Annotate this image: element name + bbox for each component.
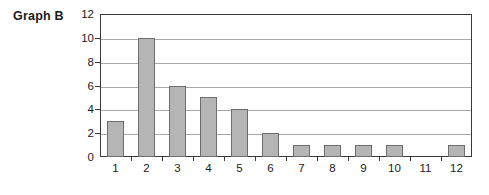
bar-2 [138,38,155,157]
x-tick-mark-3 [193,157,194,161]
x-tick-mark-4 [224,157,225,161]
bar-8 [324,145,341,157]
bar-1 [107,121,124,157]
y-tick-mark-6 [95,86,100,87]
bar-9 [355,145,372,157]
x-tick-label-3: 3 [174,162,180,174]
x-tick-mark-6 [286,157,287,161]
bar-10 [386,145,403,157]
y-tick-label-10: 10 [81,32,94,44]
x-tick-mark-2 [162,157,163,161]
y-tick-label-6: 6 [88,80,94,92]
y-axis-labels: 024681012 [70,0,94,195]
x-tick-mark-7 [317,157,318,161]
x-tick-mark-1 [131,157,132,161]
bar-7 [293,145,310,157]
x-tick-label-10: 10 [388,162,401,174]
x-tick-label-6: 6 [267,162,273,174]
bar-3 [169,86,186,158]
y-tick-mark-4 [95,109,100,110]
chart-title: Graph B [13,9,64,23]
x-tick-label-8: 8 [329,162,335,174]
x-tick-label-7: 7 [298,162,304,174]
y-tick-label-0: 0 [88,151,94,163]
x-tick-mark-9 [379,157,380,161]
x-tick-mark-11 [441,157,442,161]
x-tick-mark-8 [348,157,349,161]
x-tick-label-9: 9 [360,162,366,174]
x-tick-label-1: 1 [112,162,118,174]
y-tick-mark-8 [95,62,100,63]
graph-b-chart-screenshot: Graph B 024681012 123456789101112 [0,0,489,195]
x-tick-mark-10 [410,157,411,161]
bars-layer [100,14,472,157]
x-tick-label-2: 2 [143,162,149,174]
x-tick-label-5: 5 [236,162,242,174]
y-tick-label-2: 2 [88,127,94,139]
y-tick-mark-2 [95,133,100,134]
x-axis-labels: 123456789101112 [100,162,472,184]
x-tick-label-11: 11 [420,162,432,174]
bar-12 [448,145,465,157]
y-tick-label-12: 12 [81,8,94,20]
y-tick-label-4: 4 [88,103,94,115]
bar-4 [200,97,217,157]
x-tick-mark-5 [255,157,256,161]
x-tick-label-12: 12 [450,162,463,174]
x-tick-label-4: 4 [205,162,211,174]
bar-5 [231,109,248,157]
y-tick-mark-10 [95,38,100,39]
bar-6 [262,133,279,157]
y-tick-label-8: 8 [88,56,94,68]
